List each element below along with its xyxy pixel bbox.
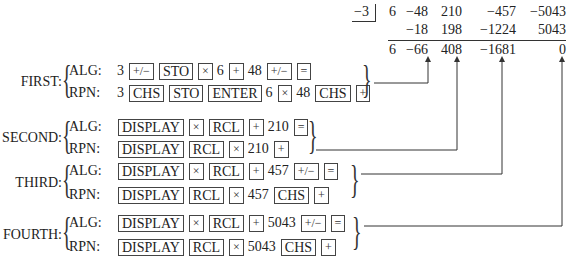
right-brace: } bbox=[362, 60, 372, 100]
mode-label: RPN: bbox=[69, 186, 117, 204]
calculator-key[interactable]: CHS bbox=[281, 239, 316, 256]
calculator-key[interactable]: +/− bbox=[301, 215, 326, 232]
mode-label: RPN: bbox=[69, 238, 117, 256]
rpn-row: RPN:DISPLAYRCL×457CHS+ bbox=[69, 186, 333, 204]
alg-row: ALG:DISPLAY×RCL+457+/−= bbox=[69, 162, 342, 180]
alg-row: ALG:DISPLAY×RCL+210= bbox=[69, 118, 312, 136]
calculator-key[interactable]: + bbox=[314, 187, 329, 204]
calculator-key[interactable]: STO bbox=[159, 63, 193, 80]
calculator-key[interactable]: × bbox=[189, 119, 204, 136]
calculator-key[interactable]: CHS bbox=[274, 187, 309, 204]
mode-label: ALG: bbox=[69, 62, 117, 80]
step-label: FIRST: bbox=[21, 74, 62, 90]
calculator-key[interactable]: = bbox=[324, 163, 339, 180]
table-cell: 6 bbox=[389, 4, 396, 20]
step-label: FOURTH: bbox=[3, 227, 62, 243]
table-cell: 210 bbox=[441, 4, 462, 20]
right-brace: } bbox=[308, 116, 318, 156]
calculator-key[interactable]: DISPLAY bbox=[118, 119, 184, 136]
calculator-key[interactable]: RCL bbox=[189, 239, 224, 256]
calculator-key[interactable]: RCL bbox=[209, 163, 244, 180]
rpn-row: RPN:DISPLAYRCL×5043CHS+ bbox=[69, 238, 340, 256]
table-cell: −457 bbox=[487, 4, 516, 20]
number-entry: 3 bbox=[117, 84, 124, 102]
table-cell: −1681 bbox=[480, 42, 516, 58]
table-cell: −5043 bbox=[530, 4, 566, 20]
number-entry: 3 bbox=[117, 62, 124, 80]
table-cell: −66 bbox=[406, 42, 428, 58]
alg-row: ALG:3+/−STO×6+48+/−= bbox=[69, 62, 315, 80]
step-label: THIRD: bbox=[15, 175, 62, 191]
calculator-key[interactable]: CHS bbox=[315, 85, 350, 102]
divisor-underline bbox=[352, 21, 375, 22]
calculator-key[interactable]: DISPLAY bbox=[118, 187, 184, 204]
calculator-key[interactable]: = bbox=[331, 215, 346, 232]
alg-row: ALG:DISPLAY×RCL+5043+/−= bbox=[69, 214, 349, 232]
calculator-key[interactable]: STO bbox=[169, 85, 203, 102]
calculator-key[interactable]: DISPLAY bbox=[118, 163, 184, 180]
number-entry: 457 bbox=[268, 162, 289, 180]
calculator-key[interactable]: CHS bbox=[129, 85, 164, 102]
calculator-key[interactable]: + bbox=[229, 63, 244, 80]
mode-label: RPN: bbox=[69, 140, 117, 158]
calculator-key[interactable]: × bbox=[189, 215, 204, 232]
sum-line bbox=[388, 40, 566, 41]
calculator-key[interactable]: = bbox=[294, 119, 309, 136]
divisor: −3 bbox=[354, 4, 369, 20]
number-entry: 48 bbox=[296, 84, 310, 102]
number-entry: 5043 bbox=[248, 238, 276, 256]
table-cell: 0 bbox=[559, 42, 566, 58]
calculator-key[interactable]: × bbox=[278, 85, 293, 102]
mode-label: RPN: bbox=[69, 84, 117, 102]
calculator-key[interactable]: RCL bbox=[209, 215, 244, 232]
number-entry: 6 bbox=[217, 62, 224, 80]
calculator-key[interactable]: ENTER bbox=[208, 85, 261, 102]
calculator-key[interactable]: + bbox=[274, 141, 289, 158]
calculator-key[interactable]: × bbox=[229, 187, 244, 204]
calculator-key[interactable]: = bbox=[297, 63, 312, 80]
calculator-key[interactable]: RCL bbox=[189, 141, 224, 158]
right-brace: } bbox=[352, 212, 362, 252]
calculator-key[interactable]: DISPLAY bbox=[118, 215, 184, 232]
calculator-key[interactable]: × bbox=[229, 239, 244, 256]
calculator-key[interactable]: DISPLAY bbox=[118, 239, 184, 256]
step-label: SECOND: bbox=[2, 130, 62, 146]
calculator-key[interactable]: × bbox=[229, 141, 244, 158]
table-cell: −18 bbox=[406, 22, 428, 38]
table-cell: 5043 bbox=[538, 22, 566, 38]
rpn-row: RPN:3CHSSTOENTER6×48CHS+ bbox=[69, 84, 374, 102]
calculator-key[interactable]: + bbox=[321, 239, 336, 256]
calculator-key[interactable]: DISPLAY bbox=[118, 141, 184, 158]
number-entry: 6 bbox=[266, 84, 273, 102]
table-cell: 198 bbox=[441, 22, 462, 38]
calculator-key[interactable]: × bbox=[198, 63, 213, 80]
table-cell: −48 bbox=[406, 4, 428, 20]
calculator-key[interactable]: +/− bbox=[267, 63, 292, 80]
number-entry: 210 bbox=[268, 118, 289, 136]
table-cell: −1224 bbox=[480, 22, 516, 38]
rpn-row: RPN:DISPLAYRCL×210+ bbox=[69, 140, 293, 158]
calculator-key[interactable]: + bbox=[249, 119, 264, 136]
calculator-key[interactable]: +/− bbox=[294, 163, 319, 180]
number-entry: 457 bbox=[248, 186, 269, 204]
calculator-key[interactable]: + bbox=[249, 215, 264, 232]
calculator-key[interactable]: × bbox=[189, 163, 204, 180]
number-entry: 48 bbox=[248, 62, 262, 80]
table-cell: 408 bbox=[441, 42, 462, 58]
calculator-key[interactable]: +/− bbox=[129, 63, 154, 80]
mode-label: ALG: bbox=[69, 162, 117, 180]
calculator-key[interactable]: RCL bbox=[189, 187, 224, 204]
mode-label: ALG: bbox=[69, 118, 117, 136]
number-entry: 5043 bbox=[268, 214, 296, 232]
divisor-bar bbox=[375, 4, 376, 22]
number-entry: 210 bbox=[248, 140, 269, 158]
calculator-key[interactable]: RCL bbox=[209, 119, 244, 136]
calculator-key[interactable]: + bbox=[249, 163, 264, 180]
table-cell: 6 bbox=[389, 42, 396, 58]
mode-label: ALG: bbox=[69, 214, 117, 232]
right-brace: } bbox=[350, 160, 360, 200]
